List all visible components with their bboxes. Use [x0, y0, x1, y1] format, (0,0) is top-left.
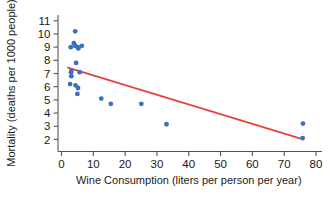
scatter-plot-figure: 23456789101101020304050607080Wine Consum… — [0, 0, 331, 212]
data-point[interactable] — [301, 121, 306, 126]
x-tick-label: 20 — [119, 158, 132, 170]
y-tick-label: 11 — [39, 15, 51, 27]
x-tick-label: 30 — [151, 158, 164, 170]
y-tick-label: 7 — [44, 68, 50, 80]
data-point[interactable] — [68, 82, 73, 87]
y-tick-label: 2 — [44, 134, 50, 146]
data-point[interactable] — [300, 136, 305, 141]
data-point[interactable] — [77, 70, 82, 75]
x-tick-label: 0 — [58, 158, 64, 170]
data-point[interactable] — [75, 92, 80, 97]
x-tick-label: 70 — [278, 158, 291, 170]
x-axis-title: Wine Consumption (liters per person per … — [76, 174, 302, 186]
x-tick-label: 50 — [214, 158, 227, 170]
x-tick-label: 10 — [87, 158, 100, 170]
y-tick-label: 3 — [44, 120, 50, 132]
data-point[interactable] — [76, 46, 81, 51]
y-tick-label: 8 — [44, 54, 50, 66]
x-tick-label: 80 — [310, 158, 323, 170]
y-tick-label: 6 — [44, 81, 50, 93]
data-point[interactable] — [76, 86, 81, 91]
y-tick-label: 9 — [44, 41, 50, 53]
chart-canvas: 23456789101101020304050607080Wine Consum… — [0, 0, 331, 212]
y-tick-label: 10 — [38, 28, 51, 40]
y-axis-ticks: 234567891011 — [38, 15, 58, 146]
data-point[interactable] — [108, 101, 113, 106]
data-point[interactable] — [139, 101, 144, 106]
axes-group — [58, 15, 322, 152]
x-axis-ticks: 01020304050607080 — [58, 152, 322, 170]
data-point[interactable] — [69, 74, 74, 79]
data-point[interactable] — [164, 122, 169, 127]
data-points-group — [68, 29, 306, 141]
data-point[interactable] — [99, 96, 104, 101]
x-tick-label: 40 — [182, 158, 195, 170]
data-point[interactable] — [68, 45, 73, 50]
x-tick-label: 60 — [246, 158, 259, 170]
y-tick-label: 4 — [44, 107, 51, 119]
data-point[interactable] — [74, 61, 79, 66]
regression-line — [68, 68, 303, 140]
y-axis-title: Mortality (deaths per 1000 people) — [5, 0, 17, 167]
y-tick-label: 5 — [44, 94, 50, 106]
data-point[interactable] — [73, 29, 78, 34]
